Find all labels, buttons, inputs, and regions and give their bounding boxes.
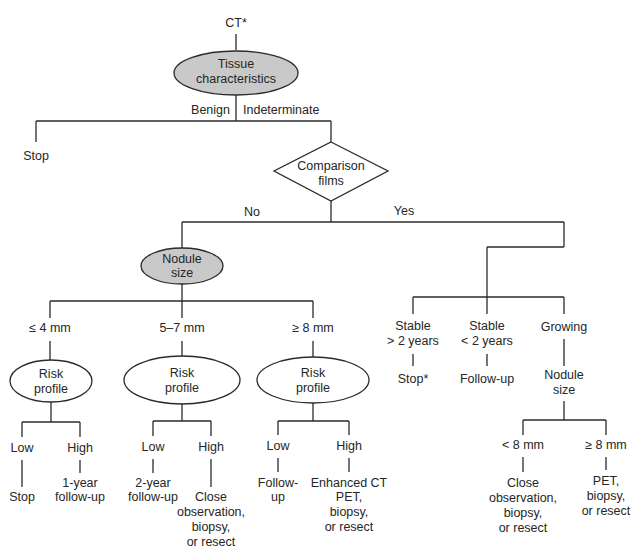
outcome-large-low-1: Follow- bbox=[258, 476, 298, 490]
size-branch-small: ≤ 4 mm bbox=[29, 321, 71, 335]
outcome-large-low-2: up bbox=[271, 490, 285, 504]
growing-nodule-label-2: size bbox=[553, 383, 575, 397]
risk-low-label: Low bbox=[11, 441, 35, 455]
nodule-label-2: size bbox=[171, 266, 193, 280]
nodule-label-1: Nodule bbox=[162, 252, 202, 266]
risk-label-1: Risk bbox=[39, 367, 64, 381]
outcome-large-high-4: or resect bbox=[325, 520, 374, 534]
yes-branch-label: Yes bbox=[394, 204, 414, 218]
tissue-label-1: Tissue bbox=[218, 57, 254, 71]
lung-nodule-flowchart: CT* Tissue characteristics Benign Indete… bbox=[0, 0, 643, 556]
risk-label-2: profile bbox=[296, 381, 330, 395]
outcome-small-high-1: 1-year bbox=[62, 476, 97, 490]
growing-size-small: < 8 mm bbox=[502, 438, 544, 452]
outcome-large-high-3: biopsy, bbox=[330, 505, 369, 519]
outcome-mid-high-2: observation, bbox=[177, 505, 245, 519]
size-branch-large: ≥ 8 mm bbox=[292, 321, 334, 335]
no-branch-label: No bbox=[244, 205, 260, 219]
risk-low-label: Low bbox=[267, 439, 291, 453]
benign-branch-label: Benign bbox=[191, 103, 230, 117]
growing-outcome-small-2: observation, bbox=[489, 491, 557, 505]
risk-profile-large-node bbox=[257, 357, 369, 403]
risk-low-label: Low bbox=[142, 440, 166, 454]
outcome-mid-low-2: follow-up bbox=[128, 490, 178, 504]
stable-gt-outcome: Stop* bbox=[398, 372, 429, 386]
size-branch-mid: 5–7 mm bbox=[159, 321, 204, 335]
outcome-large-high-1: Enhanced CT bbox=[311, 476, 388, 490]
growing-outcome-large-3: or resect bbox=[582, 504, 631, 518]
risk-label-2: profile bbox=[34, 382, 68, 396]
root-label: CT* bbox=[225, 16, 247, 30]
stable-gt-label-1: Stable bbox=[395, 319, 430, 333]
risk-high-label: High bbox=[336, 439, 362, 453]
outcome-small-low: Stop bbox=[9, 490, 35, 504]
stable-gt-label-2: > 2 years bbox=[387, 334, 439, 348]
stable-lt-label-2: < 2 years bbox=[461, 334, 513, 348]
tissue-label-2: characteristics bbox=[196, 72, 276, 86]
risk-profile-mid-node bbox=[124, 356, 240, 404]
stable-lt-outcome: Follow-up bbox=[460, 372, 514, 386]
benign-stop-outcome: Stop bbox=[23, 149, 49, 163]
growing-nodule-label-1: Nodule bbox=[544, 368, 584, 382]
growing-size-large: ≥ 8 mm bbox=[585, 438, 627, 452]
risk-high-label: High bbox=[198, 440, 224, 454]
growing-outcome-small-4: or resect bbox=[499, 521, 548, 535]
outcome-mid-high-4: or resect bbox=[187, 535, 236, 549]
risk-high-label: High bbox=[67, 441, 93, 455]
comparison-label-1: Comparison bbox=[297, 159, 364, 173]
indeterminate-branch-label: Indeterminate bbox=[243, 103, 319, 117]
growing-outcome-small-3: biopsy, bbox=[504, 506, 543, 520]
outcome-mid-high-1: Close bbox=[195, 490, 227, 504]
growing-label: Growing bbox=[541, 320, 588, 334]
growing-outcome-large-2: biopsy, bbox=[587, 489, 626, 503]
stable-lt-label-1: Stable bbox=[469, 319, 504, 333]
outcome-large-high-2: PET, bbox=[336, 490, 362, 504]
risk-label-2: profile bbox=[165, 381, 199, 395]
outcome-mid-low-1: 2-year bbox=[135, 476, 170, 490]
outcome-mid-high-3: biopsy, bbox=[192, 520, 231, 534]
outcome-small-high-2: follow-up bbox=[55, 490, 105, 504]
comparison-label-2: films bbox=[318, 174, 344, 188]
growing-outcome-large-1: PET, bbox=[593, 474, 619, 488]
growing-outcome-small-1: Close bbox=[507, 476, 539, 490]
risk-label-1: Risk bbox=[301, 366, 326, 380]
risk-label-1: Risk bbox=[170, 366, 195, 380]
